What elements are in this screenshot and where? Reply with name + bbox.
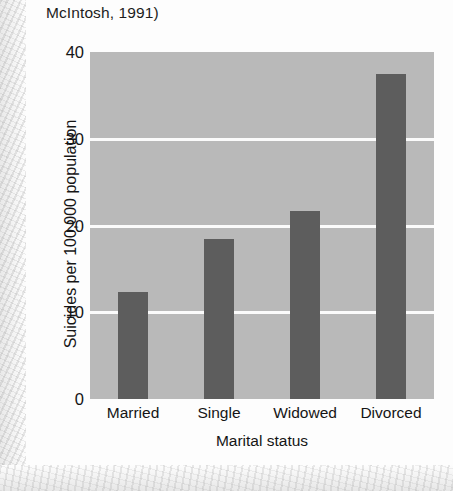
bar-divorced bbox=[376, 74, 406, 399]
y-tick-label-20: 20 bbox=[40, 216, 84, 235]
page-edge-texture-left bbox=[0, 0, 26, 491]
page-edge-texture-bottom bbox=[0, 465, 453, 491]
x-tick-label-single: Single bbox=[197, 404, 240, 422]
y-tick-label-40: 40 bbox=[40, 43, 84, 62]
x-tick-label-divorced: Divorced bbox=[360, 404, 421, 422]
bar-widowed bbox=[290, 211, 320, 399]
figure-caption: McIntosh, 1991) bbox=[46, 4, 159, 22]
bar-single bbox=[204, 239, 234, 399]
y-tick-label-0: 0 bbox=[40, 390, 84, 409]
x-axis-tick-labels: MarriedSingleWidowedDivorced bbox=[90, 404, 434, 428]
x-tick-label-married: Married bbox=[107, 404, 160, 422]
x-tick-label-widowed: Widowed bbox=[273, 404, 337, 422]
y-tick-label-10: 10 bbox=[40, 303, 84, 322]
y-axis-tick-labels: 010203040 bbox=[36, 52, 84, 399]
y-tick-label-30: 30 bbox=[40, 129, 84, 148]
x-axis-title: Marital status bbox=[90, 432, 434, 450]
plot-area bbox=[90, 52, 434, 399]
bar-married bbox=[118, 292, 148, 399]
figure-page: McIntosh, 1991) Suicides per 100,000 pop… bbox=[0, 0, 453, 491]
